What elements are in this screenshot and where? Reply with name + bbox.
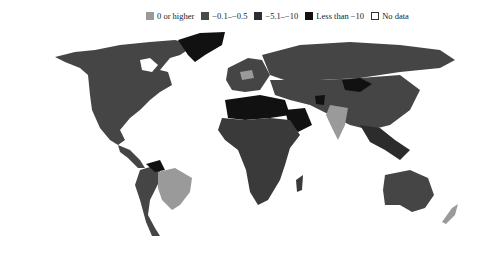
legend-item-no-data: No data	[371, 11, 409, 21]
region-central-america	[118, 145, 145, 168]
region-southeast-asia	[360, 125, 410, 160]
legend-item-minus-5-1-to-10: −5.1–−10	[254, 11, 298, 21]
legend-swatch	[146, 12, 154, 20]
region-india	[326, 105, 348, 140]
region-brazil	[158, 168, 192, 210]
legend-label: No data	[382, 11, 409, 21]
region-afghanistan	[315, 95, 325, 105]
region-africa	[218, 118, 300, 205]
legend-label: −5.1–−10	[265, 11, 298, 21]
legend-label: Less than −10	[316, 11, 364, 21]
region-north-africa	[225, 95, 290, 120]
region-new-zealand	[442, 204, 458, 224]
map-legend: 0 or higher −0.1–−0.5 −5.1–−10 Less than…	[146, 11, 409, 21]
region-australia	[383, 170, 434, 212]
legend-label: −0.1–−0.5	[212, 11, 247, 21]
legend-item-0-or-higher: 0 or higher	[146, 11, 194, 21]
legend-swatch	[201, 12, 209, 20]
region-south-america-west	[135, 164, 160, 236]
legend-item-less-than-minus-10: Less than −10	[305, 11, 364, 21]
region-russia	[262, 42, 455, 82]
region-north-america	[55, 40, 195, 145]
legend-swatch	[254, 12, 262, 20]
legend-label: 0 or higher	[157, 11, 194, 21]
world-map	[0, 22, 491, 255]
region-greenland	[178, 32, 225, 62]
legend-swatch	[305, 12, 313, 20]
legend-swatch	[371, 12, 379, 20]
region-madagascar	[296, 175, 303, 192]
legend-item-minus-0-1-to-0-5: −0.1–−0.5	[201, 11, 247, 21]
